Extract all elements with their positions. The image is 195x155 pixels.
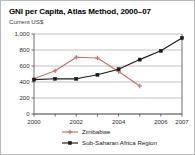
y-axis-tick-label: 800 bbox=[19, 47, 30, 53]
x-axis-tick-label: 2006 bbox=[154, 119, 168, 125]
x-axis-tick-label: 2004 bbox=[112, 119, 126, 125]
data-point-marker bbox=[138, 58, 141, 61]
series-line bbox=[34, 38, 182, 80]
y-axis-tick-label: 1,000 bbox=[14, 31, 30, 37]
x-axis-tick-label: 2007 bbox=[175, 119, 189, 125]
data-point-marker bbox=[117, 68, 120, 71]
y-axis-tick-label: 400 bbox=[19, 79, 30, 85]
data-point-marker bbox=[54, 77, 57, 80]
series-sub-saharan-africa bbox=[32, 36, 183, 81]
line-chart-svg: 02004006008001,00020002002200420062007Zi… bbox=[1, 1, 195, 155]
legend-item-zimbabwe[interactable]: Zimbabwe bbox=[62, 128, 111, 135]
y-axis-tick-label: 0 bbox=[26, 111, 30, 117]
legend-label: Zimbabwe bbox=[82, 128, 111, 135]
chart-figure: GNI per Capita, Atlas Method, 2000–07 Cu… bbox=[0, 0, 195, 155]
y-axis-tick-label: 200 bbox=[19, 95, 30, 101]
data-point-marker bbox=[180, 36, 183, 39]
data-point-marker bbox=[32, 78, 35, 81]
data-point-marker bbox=[75, 77, 78, 80]
legend-marker-icon bbox=[68, 141, 71, 144]
plot-area: 02004006008001,00020002002200420062007Zi… bbox=[1, 1, 195, 155]
y-axis-tick-label: 600 bbox=[19, 63, 30, 69]
x-axis-tick-label: 2002 bbox=[70, 119, 84, 125]
legend-item-sub-saharan-africa[interactable]: Sub-Saharan Africa Region bbox=[62, 139, 158, 146]
x-axis-tick-label: 2000 bbox=[27, 119, 41, 125]
legend-label: Sub-Saharan Africa Region bbox=[82, 139, 158, 146]
series-zimbabwe bbox=[32, 55, 142, 88]
data-point-marker bbox=[159, 49, 162, 52]
data-point-marker bbox=[96, 73, 99, 76]
